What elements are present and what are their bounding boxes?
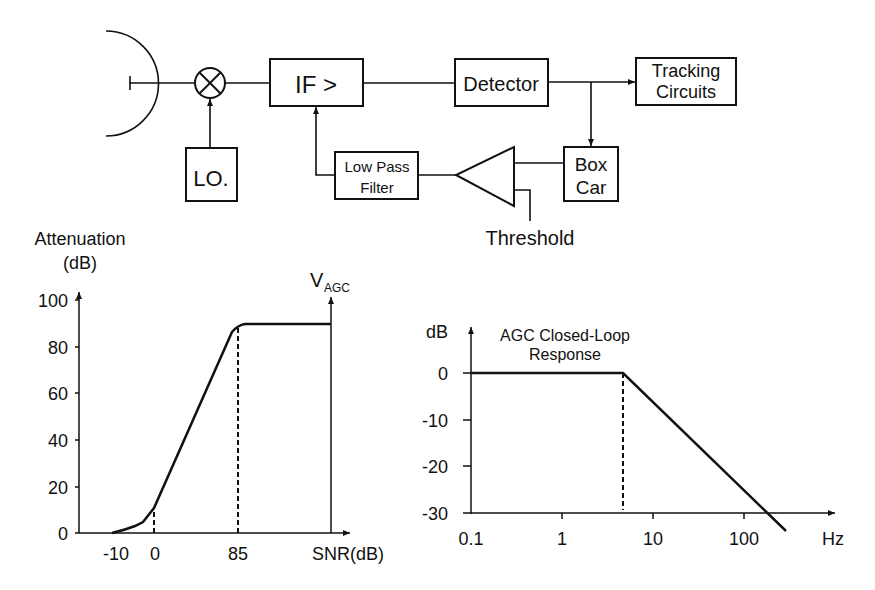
- mixer-icon: [195, 68, 225, 98]
- x-axis-label: Hz: [822, 529, 844, 549]
- ytick-minus20: -20: [422, 457, 448, 477]
- ytick-60: 60: [48, 384, 68, 404]
- ytick-minus10: -10: [422, 411, 448, 431]
- vagc-subscript: AGC: [324, 281, 350, 295]
- boxcar-label-2: Car: [576, 177, 607, 198]
- ytick-minus30: -30: [422, 504, 448, 524]
- tracking-label-1: Tracking: [652, 61, 720, 81]
- lpf-label-2: Filter: [360, 179, 393, 196]
- xtick-100: 100: [729, 529, 759, 549]
- ytick-0: 0: [58, 524, 68, 544]
- agc-diagram: LO. IF > Detector Tracking Circuits Box …: [0, 0, 875, 590]
- tracking-label-2: Circuits: [656, 82, 716, 102]
- ytick-100: 100: [38, 291, 68, 311]
- vagc-label: V: [310, 269, 324, 291]
- y-axis-label: dB: [426, 322, 448, 342]
- lo-label: LO.: [193, 166, 228, 191]
- closed-loop-response-chart: dB AGC Closed-Loop Response 0 -10 -20 -3…: [422, 322, 844, 549]
- threshold-label: Threshold: [486, 227, 575, 249]
- xtick-85: 85: [228, 544, 248, 564]
- ytick-0: 0: [438, 364, 448, 384]
- attenuation-chart: Attenuation (dB) 100 80 60 40 20 0: [34, 229, 384, 564]
- ytick-40: 40: [48, 431, 68, 451]
- lpf-label-1: Low Pass: [344, 158, 409, 175]
- x-axis-label: SNR(dB): [312, 544, 384, 564]
- response-curve: [471, 373, 786, 531]
- if-amp-label: IF >: [295, 71, 337, 98]
- chart-title-line2: Response: [529, 346, 601, 363]
- xtick-1: 1: [557, 529, 567, 549]
- y-axis-label-line2: (dB): [63, 253, 97, 273]
- ytick-20: 20: [48, 478, 68, 498]
- chart-title-line1: AGC Closed-Loop: [500, 327, 630, 344]
- y-axis-label-line1: Attenuation: [34, 229, 125, 249]
- xtick-0: 0: [150, 544, 160, 564]
- attenuation-curve: [112, 324, 331, 533]
- xtick-10: 10: [643, 529, 663, 549]
- detector-label: Detector: [463, 73, 539, 95]
- block-diagram: [106, 31, 736, 221]
- xtick-minus10: -10: [103, 544, 129, 564]
- ytick-80: 80: [48, 338, 68, 358]
- comparator-icon: [456, 147, 514, 206]
- boxcar-label-1: Box: [575, 154, 608, 175]
- xtick-0.1: 0.1: [458, 529, 483, 549]
